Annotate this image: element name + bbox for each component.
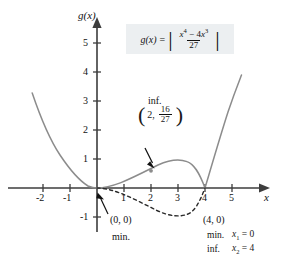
x-tick-5: 5: [229, 193, 234, 203]
four-kind-inf-label: inf.: [207, 245, 220, 255]
critical-x-values: x1 = 0 x2 = 4: [232, 228, 254, 257]
y-tick-3: 3: [83, 96, 88, 106]
formula-fraction: x4 − 4x3 27: [176, 28, 213, 50]
y-tick-minus-1: -1: [80, 212, 88, 222]
inflection-arrow-shaft: [145, 148, 153, 163]
inflection-point-marker: [149, 169, 153, 173]
origin-arrow-head: [96, 193, 104, 200]
abs-bar-left: |: [168, 30, 172, 48]
formula-box: g(x) = | x4 − 4x3 27 |: [126, 24, 234, 54]
x-tick-3: 3: [175, 193, 180, 203]
inflection-y-num: 16: [159, 105, 172, 114]
paren-right: ): [176, 106, 183, 124]
x1-subscript: 1: [236, 234, 239, 241]
solid-curve-absolute-value: [32, 75, 241, 188]
inflection-x-value: 2,: [147, 109, 155, 120]
x-tick-minus-2: -2: [36, 193, 44, 203]
x-tick-minus-1: -1: [63, 193, 71, 203]
formula-denominator: 27: [187, 40, 200, 50]
origin-kind-label: min.: [112, 232, 130, 242]
x2-subscript: 2: [236, 248, 239, 255]
x1-equals-value: = 0: [242, 229, 254, 239]
paren-left: (: [138, 106, 145, 124]
formula-lhs: g(x): [140, 34, 156, 45]
function-graph-figure: g(x) x 1 2 3 4 5 -1 -2 -1 1 2 3 4 5 g(x)…: [0, 0, 283, 264]
num-exp1: 4: [184, 27, 187, 34]
inflection-y-fraction: 16 27: [157, 105, 174, 125]
inflection-arrow-head: [147, 161, 155, 168]
num-minus: − 4: [189, 29, 201, 39]
num-exp2: 3: [205, 27, 208, 34]
four-kind-min-label: min.: [207, 231, 224, 241]
origin-coordinate-label: (0, 0): [110, 215, 132, 225]
x2-row: x2 = 4: [232, 242, 254, 256]
x-tick-4: 4: [202, 193, 207, 203]
inflection-y-den: 27: [159, 114, 172, 124]
y-tick-2: 2: [83, 125, 88, 135]
x-axis-label: x: [264, 192, 269, 203]
abs-bar-right: |: [215, 30, 219, 48]
x2-equals-value: = 4: [242, 243, 254, 253]
y-tick-4: 4: [83, 67, 88, 77]
y-tick-5: 5: [83, 38, 88, 48]
formula-expression: g(x) = | x4 − 4x3 27 |: [140, 28, 219, 50]
y-tick-1: 1: [83, 154, 88, 164]
x-tick-1: 1: [121, 193, 126, 203]
formula-equals: =: [160, 34, 166, 45]
x-tick-2: 2: [148, 193, 153, 203]
x1-row: x1 = 0: [232, 228, 254, 242]
formula-numerator: x4 − 4x3: [178, 28, 211, 39]
y-axis-label: g(x): [78, 10, 96, 21]
inflection-coordinate-inner: ( 2, 16 27 ): [138, 105, 183, 125]
inflection-coordinate-label: ( 2, 16 27 ): [138, 105, 183, 125]
four-coordinate-label: (4, 0): [203, 215, 225, 225]
